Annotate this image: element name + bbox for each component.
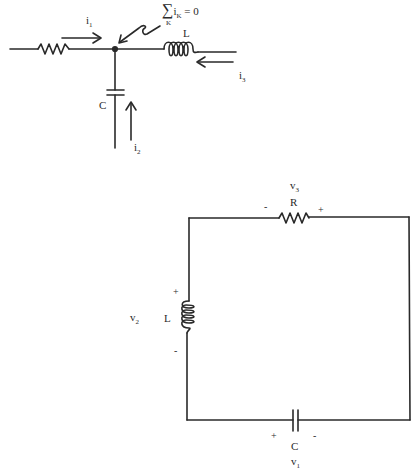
inductor-icon <box>182 301 194 333</box>
inductor-icon <box>164 42 198 56</box>
circuit-diagrams <box>0 0 415 472</box>
inductor-minus-sign: - <box>174 346 177 356</box>
capacitor-label-bottom: C <box>291 441 298 452</box>
rlc-loop-diagram <box>182 213 410 431</box>
squiggle-pointer-icon <box>120 26 160 42</box>
inductor-label-bottom: L <box>164 313 171 324</box>
current-label-i3: i3 <box>239 70 246 84</box>
voltage-label-v2: v2 <box>130 312 139 326</box>
inductor-plus-sign: + <box>173 287 179 297</box>
voltage-label-v1: v1 <box>291 456 300 470</box>
wire <box>409 217 410 420</box>
kcl-equation: ∑iK = 0 <box>162 2 199 20</box>
current-label-i1: i1 <box>86 15 93 29</box>
current-label-i2: i2 <box>134 142 141 156</box>
resistor-icon <box>38 44 69 54</box>
capacitor-label: C <box>99 100 106 111</box>
capacitor-minus-sign: - <box>313 431 316 441</box>
capacitor-plus-sign: + <box>271 431 277 441</box>
resistor-minus-sign: - <box>264 202 267 212</box>
sigma-symbol: ∑ <box>162 1 173 18</box>
voltage-label-v3: v3 <box>290 180 299 194</box>
resistor-label: R <box>290 197 297 208</box>
inductor-label: L <box>183 28 190 39</box>
sum-index: K <box>166 20 171 27</box>
resistor-icon <box>279 213 309 223</box>
resistor-plus-sign: + <box>318 205 324 215</box>
kcl-node-diagram <box>10 26 236 148</box>
